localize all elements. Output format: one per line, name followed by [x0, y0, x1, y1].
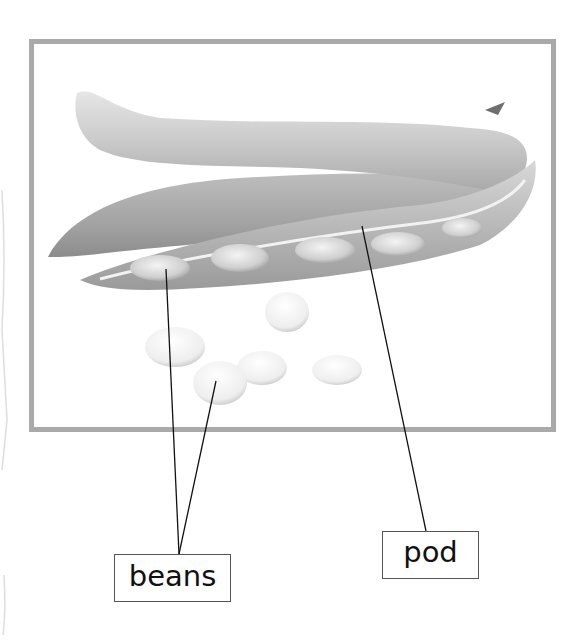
pod-leader-line — [362, 226, 426, 531]
bean-in-pod — [371, 232, 425, 256]
bean-in-pod — [211, 244, 269, 272]
beans-leader-line-2 — [179, 381, 216, 554]
loose-bean — [193, 361, 247, 405]
beans-leader-line-1 — [166, 269, 179, 554]
loose-bean — [265, 292, 309, 332]
beans-label-text: beans — [129, 559, 217, 593]
loose-bean — [145, 327, 205, 367]
pod-label: pod — [382, 531, 479, 579]
pod-label-text: pod — [403, 535, 458, 569]
bean-in-pod — [295, 237, 355, 263]
loose-bean — [312, 355, 362, 385]
bean-pod-illustration — [0, 0, 565, 643]
bean-in-pod — [442, 218, 482, 238]
bean-in-pod — [130, 255, 190, 281]
beans-label: beans — [114, 554, 231, 602]
